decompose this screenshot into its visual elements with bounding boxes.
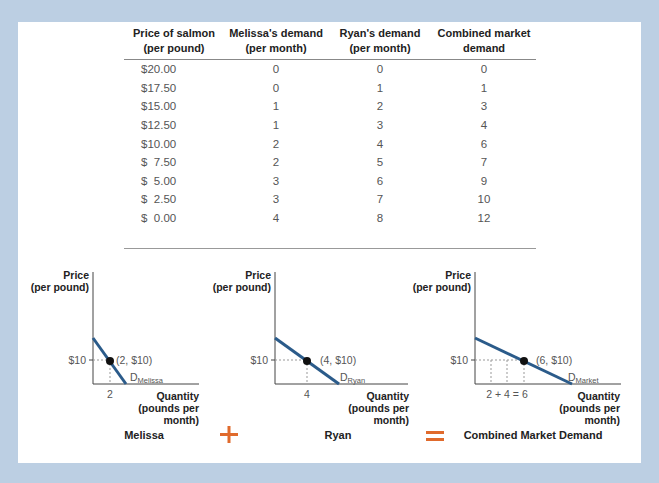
x-axis-label: Quantity: [156, 390, 199, 402]
demand-point: [106, 357, 114, 365]
plus-icon: [220, 426, 238, 443]
point-label: (4, $10): [320, 354, 356, 366]
y-axis-label: Price: [445, 269, 471, 281]
graph-title-market: Combined Market Demand: [464, 429, 603, 441]
melissa-graph: Price (per pound) $10 (2, $10) DMelissa …: [31, 269, 199, 441]
graph-title-ryan: Ryan: [325, 429, 352, 441]
y-axis-label-unit: (per pound): [213, 281, 271, 293]
y-axis-label-unit: (per pound): [413, 281, 471, 293]
point-label: (2, $10): [116, 354, 152, 366]
x-axis-label-unit: (pounds per: [559, 402, 620, 414]
demand-point: [303, 357, 311, 365]
y-axis-label: Price: [245, 269, 271, 281]
x-tick-label: 2: [107, 388, 113, 400]
x-axis-label-unit: (pounds per: [348, 402, 409, 414]
curve-label: DMelissa: [130, 371, 164, 385]
market-graph: Price (per pound) $10 (6, $10) DMarket 2…: [413, 269, 621, 441]
y-axis-label-unit: (per pound): [31, 281, 89, 293]
x-axis-label: Quantity: [577, 390, 620, 402]
price-tick-label: $10: [68, 354, 86, 366]
ryan-graph: Price (per pound) $10 (4, $10) DRyan 4 Q…: [213, 269, 409, 441]
demand-point: [520, 357, 528, 365]
curve-label: DRyan: [340, 371, 365, 385]
x-axis-label-unit: (pounds per: [138, 402, 199, 414]
curve-label: DMarket: [568, 371, 599, 385]
x-tick-label: 4: [304, 388, 310, 400]
x-axis-label-unit-2: month): [163, 414, 199, 426]
x-axis-label-unit-2: month): [584, 414, 620, 426]
x-axis-label-unit-2: month): [373, 414, 409, 426]
demand-graphs: Price (per pound) $10 (2, $10) DMelissa …: [0, 0, 659, 483]
graph-title-melissa: Melissa: [124, 429, 165, 441]
price-tick-label: $10: [250, 354, 268, 366]
x-tick-label: 2 + 4 = 6: [486, 388, 528, 400]
point-label: (6, $10): [536, 354, 572, 366]
price-tick-label: $10: [450, 354, 468, 366]
x-axis-label: Quantity: [366, 390, 409, 402]
y-axis-label: Price: [63, 269, 89, 281]
equals-icon: [426, 431, 444, 441]
